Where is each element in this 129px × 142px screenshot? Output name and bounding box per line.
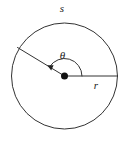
center-point-dot: [61, 73, 68, 80]
circle-sector-diagram: s θ r: [0, 0, 129, 142]
arc-length-label: s: [60, 2, 64, 14]
radius-label: r: [94, 79, 99, 91]
diagram-canvas: s θ r: [0, 0, 129, 142]
radius-line-upper-left: [18, 48, 65, 77]
angle-label: θ: [60, 49, 66, 61]
angle-arc-arrowhead-icon: [47, 65, 53, 70]
